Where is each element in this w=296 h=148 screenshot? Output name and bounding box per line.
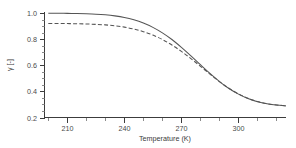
y-axis-tick-labels: 0.20.40.60.81.0 xyxy=(27,9,37,123)
chart-plot-area: 0.20.40.60.81.0 210240270300 Temperature… xyxy=(0,0,296,148)
x-axis-title: Temperature (K) xyxy=(139,134,191,143)
chart-figure: 0.20.40.60.81.0 210240270300 Temperature… xyxy=(0,0,296,148)
x-tick-label-210: 210 xyxy=(62,124,74,133)
y-tick-label-0.6: 0.6 xyxy=(27,61,37,70)
y-tick-label-0.8: 0.8 xyxy=(27,35,37,44)
x-tick-label-270: 270 xyxy=(176,124,188,133)
data-series-group xyxy=(48,13,286,106)
y-tick-label-0.2: 0.2 xyxy=(27,114,37,123)
y-tick-label-1.0: 1.0 xyxy=(27,9,37,18)
series-solid-curve xyxy=(48,13,286,106)
x-axis-tick-labels: 210240270300 xyxy=(62,124,245,133)
y-axis-major-ticks xyxy=(40,14,45,119)
y-axis-title: γ [-] xyxy=(5,59,14,71)
y-tick-label-0.4: 0.4 xyxy=(27,87,37,96)
x-axis-major-ticks xyxy=(68,118,239,123)
x-tick-label-300: 300 xyxy=(233,124,245,133)
x-tick-label-240: 240 xyxy=(119,124,131,133)
